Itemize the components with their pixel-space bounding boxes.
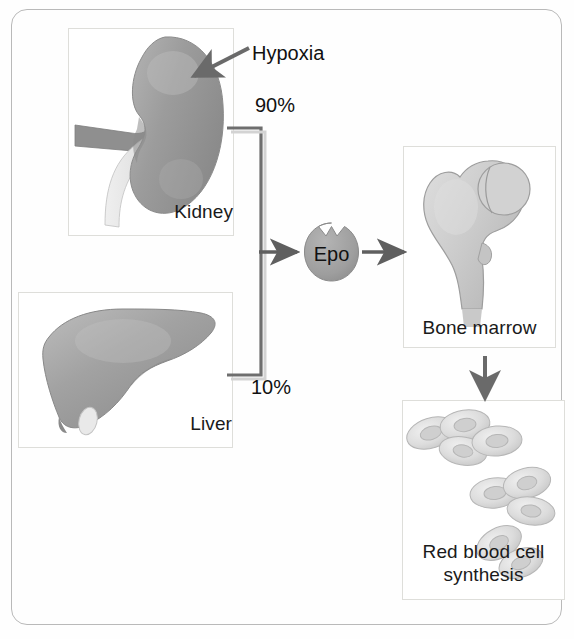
epo-molecule: Epo <box>303 222 360 282</box>
percent-10-label: 10% <box>251 376 291 399</box>
bracket-sources <box>227 128 261 375</box>
epo-label: Epo <box>303 222 360 282</box>
diagram-canvas: Kidney <box>0 0 574 639</box>
arrow-hypoxia <box>194 48 249 76</box>
percent-90-label: 90% <box>255 94 295 117</box>
hypoxia-label: Hypoxia <box>252 42 324 65</box>
